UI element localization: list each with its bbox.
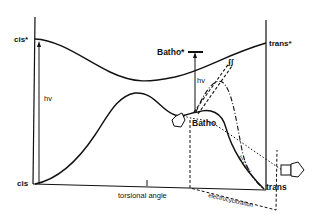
vibration-mark: ʃʃ bbox=[227, 57, 234, 66]
dashed-decay-path bbox=[198, 66, 232, 114]
electrocyclization-dashed-path bbox=[190, 120, 277, 210]
cis-vertical-axis bbox=[33, 17, 35, 184]
x-axis bbox=[33, 184, 266, 190]
label-hv-left: hv bbox=[44, 94, 52, 103]
label-cis-excited: cis* bbox=[14, 35, 29, 44]
label-cis-ground: cis bbox=[17, 179, 29, 188]
ground-state-surface bbox=[35, 93, 264, 189]
label-batho-ground: Batho bbox=[192, 118, 216, 128]
dash-dot-decay-path bbox=[196, 81, 264, 189]
label-batho-excited: Batho* bbox=[157, 47, 185, 57]
cyclized-chromophore-icon bbox=[281, 162, 304, 177]
label-x-axis: torsional angle bbox=[118, 191, 167, 200]
arrowhead-icon bbox=[37, 41, 41, 47]
label-trans-ground: trans bbox=[266, 182, 287, 192]
label-hv-center: hv bbox=[197, 76, 205, 85]
energy-diagram: ʃʃ cis* cis trans* trans Batho* Batho hv… bbox=[0, 0, 314, 222]
label-electrocyclization: electrocyclization bbox=[208, 192, 254, 208]
label-to-lumi: to Lumi bbox=[237, 154, 253, 174]
label-trans-excited: trans* bbox=[269, 39, 293, 48]
